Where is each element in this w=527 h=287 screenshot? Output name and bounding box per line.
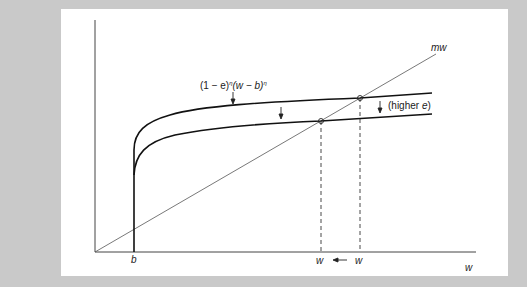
higher-e-label: (higher e) <box>388 101 431 111</box>
curve-label-mid: (w − b) <box>233 80 264 91</box>
higher-e-prefix: (higher <box>388 100 422 111</box>
lower-curve <box>134 114 432 175</box>
curve-label-exp2: η <box>263 80 266 86</box>
arrow-down-icon <box>279 107 283 119</box>
x-axis-label: w <box>465 263 472 273</box>
mw-label: mw <box>431 43 447 53</box>
w-new-tick-label: w <box>316 256 323 266</box>
arrow-down-icon <box>378 101 382 113</box>
curve-label: (1 − e)η(w − b)η <box>200 80 267 91</box>
higher-e-suffix: ) <box>427 100 430 111</box>
diagram-canvas <box>0 0 527 287</box>
arrow-left-icon <box>333 258 347 262</box>
arrow-down-icon <box>231 92 235 104</box>
w-old-tick-label: w <box>355 256 362 266</box>
b-tick-label: b <box>131 255 137 265</box>
curve-label-base: (1 − e) <box>200 80 229 91</box>
